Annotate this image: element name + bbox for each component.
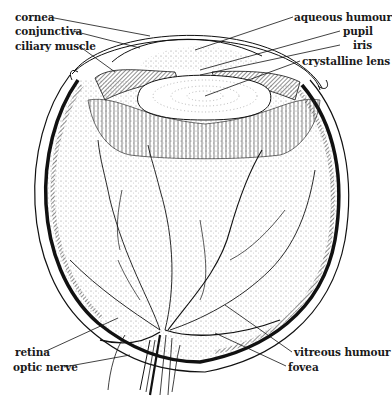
label-cornea: cornea [15, 11, 54, 23]
label-aqueous-humour: aqueous humour [294, 11, 392, 23]
label-ciliary-muscle: ciliary muscle [15, 40, 96, 52]
label-conjunctiva: conjunctiva [15, 25, 82, 37]
label-fovea: fovea [288, 361, 319, 373]
label-retina: retina [15, 346, 50, 358]
label-optic-nerve: optic nerve [13, 361, 78, 373]
label-iris: iris [353, 39, 372, 51]
label-pupil: pupil [343, 25, 373, 37]
crystalline-lens [138, 75, 271, 120]
label-crystalline-lens: crystalline lens [302, 55, 390, 67]
label-vitreous-humour: vitreous humour [294, 346, 390, 358]
